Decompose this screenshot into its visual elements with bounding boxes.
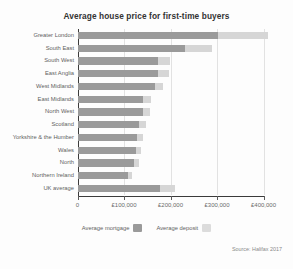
bar-segment-deposit	[134, 159, 139, 166]
bar-segment-mortgage	[78, 57, 159, 64]
x-axis-tick-label: £100,000	[111, 202, 136, 208]
source-note: Source: Halifax 2017	[232, 246, 282, 252]
bar-segment-deposit	[128, 172, 132, 179]
bar-segment-mortgage	[78, 159, 135, 166]
category-label: UK average	[0, 185, 74, 192]
category-label: East Anglia	[0, 70, 74, 77]
category-label: West Midlands	[0, 83, 74, 90]
bar-segment-mortgage	[78, 108, 143, 115]
bar-segment-mortgage	[78, 83, 155, 90]
category-label: North	[0, 159, 74, 166]
category-label: Yorkshire & the Humber	[0, 134, 74, 141]
bar-segment-mortgage	[78, 96, 144, 103]
x-axis-tick-label: £300,000	[204, 202, 229, 208]
category-label: Scotland	[0, 121, 74, 128]
legend-swatch-mortgage	[133, 224, 142, 232]
legend-item[interactable]: Average deposit	[156, 224, 211, 232]
x-axis-tick-mark	[78, 196, 79, 200]
bar-row	[78, 32, 269, 39]
bar-segment-deposit	[143, 96, 151, 103]
bar-row	[78, 159, 140, 166]
bar-segment-deposit	[139, 121, 146, 128]
chart-legend: Average mortgageAverage deposit	[0, 224, 293, 232]
bar-row	[78, 121, 146, 128]
bar-segment-mortgage	[78, 121, 140, 128]
x-axis-tick-mark	[217, 196, 218, 200]
bar-row	[78, 57, 170, 64]
bar-segment-mortgage	[78, 172, 129, 179]
legend-swatch-deposit	[202, 224, 211, 232]
category-label: Greater London	[0, 32, 74, 39]
bar-segment-mortgage	[78, 70, 159, 77]
category-label: North West	[0, 108, 74, 115]
bar-segment-mortgage	[78, 134, 138, 141]
category-label: Northern Ireland	[0, 172, 74, 179]
bar-segment-deposit	[137, 134, 143, 141]
category-label: South East	[0, 45, 74, 52]
bar-row	[78, 108, 150, 115]
chart-title: Average house price for first-time buyer…	[0, 11, 293, 21]
gridline	[264, 29, 265, 195]
bar-row	[78, 96, 151, 103]
bar-segment-mortgage	[78, 185, 160, 192]
x-axis-tick-label: 0	[76, 202, 79, 208]
bar-segment-deposit	[158, 57, 169, 64]
category-label: Wales	[0, 147, 74, 154]
bar-segment-deposit	[218, 32, 268, 39]
bar-row	[78, 134, 144, 141]
x-axis-tick-mark	[124, 196, 125, 200]
bar-segment-mortgage	[78, 147, 136, 154]
bar-segment-mortgage	[78, 32, 219, 39]
plot-area	[78, 29, 264, 195]
x-axis-tick-label: £400,000	[251, 202, 276, 208]
legend-item[interactable]: Average mortgage	[82, 224, 143, 232]
bar-row	[78, 172, 133, 179]
x-axis-tick-mark	[264, 196, 265, 200]
bar-row	[78, 70, 169, 77]
x-axis-tick-label: £200,000	[158, 202, 183, 208]
bar-segment-deposit	[136, 147, 142, 154]
chart-figure: Average house price for first-time buyer…	[0, 0, 293, 269]
bar-segment-deposit	[155, 83, 163, 90]
x-axis-tick-mark	[171, 196, 172, 200]
bar-row	[78, 83, 164, 90]
bar-segment-deposit	[185, 45, 212, 52]
bar-row	[78, 45, 212, 52]
bar-row	[78, 147, 142, 154]
category-label: South West	[0, 57, 74, 64]
bar-segment-deposit	[143, 108, 150, 115]
legend-label: Average mortgage	[82, 225, 130, 231]
bar-row	[78, 185, 176, 192]
bar-segment-deposit	[160, 185, 175, 192]
bar-segment-mortgage	[78, 45, 185, 52]
bar-segment-deposit	[158, 70, 168, 77]
category-label: East Midlands	[0, 96, 74, 103]
legend-label: Average deposit	[156, 225, 198, 231]
